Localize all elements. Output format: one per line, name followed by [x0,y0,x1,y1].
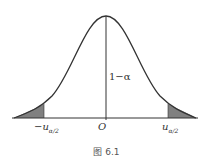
bell-curve [14,16,196,118]
right-subscript: α/2 [168,128,178,134]
left-subscript: α/2 [49,128,59,134]
center-area-label: 1−α [109,72,131,82]
normal-curve-diagram [0,0,213,159]
figure-caption: 图 6.1 [0,145,213,158]
right-critical-label: uα/2 [162,122,178,134]
left-critical-label: −uα/2 [34,122,59,134]
origin-label: O [98,122,106,132]
